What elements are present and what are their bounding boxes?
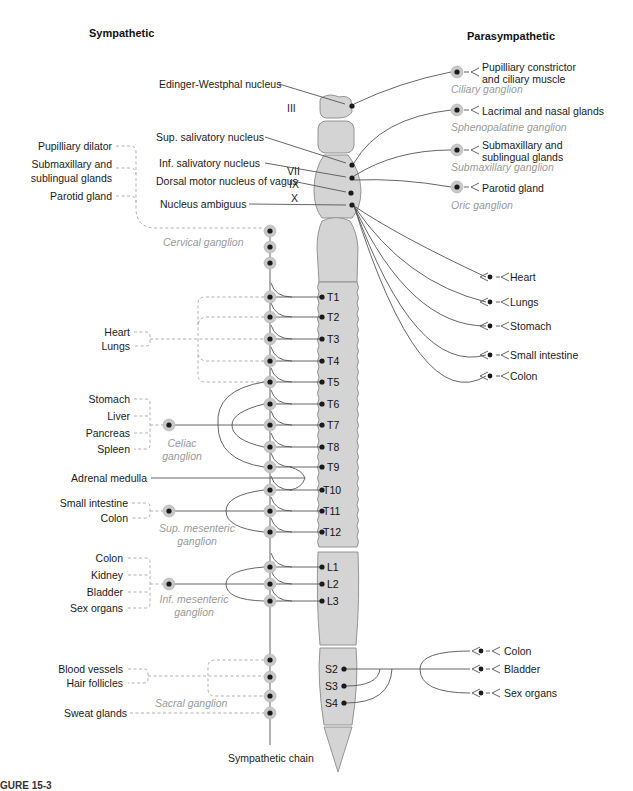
vagus-target-small-intestine: Small intestine <box>510 349 578 361</box>
cranial-nerve-ix: IX <box>289 178 299 190</box>
symp-target-hair-follicles: Hair follicles <box>66 677 123 689</box>
segment-label-t10: T10 <box>323 484 341 496</box>
segment-label-l1: L1 <box>327 561 339 573</box>
symp-target-pupil-dilator: Pupilliary dilator <box>38 140 112 152</box>
symp-target-small-intestine: Small intestine <box>60 497 128 509</box>
sacral-para-target-sex-organs: Sex organs <box>504 687 557 699</box>
ganglion-label-ciliary: Ciliary ganglion <box>451 83 523 96</box>
ganglion-label-sphenopalatine: Sphenopalatine ganglion <box>451 121 567 134</box>
ganglion-label-sacral: Sacral ganglion <box>155 697 227 710</box>
symp-target-adrenal-medulla: Adrenal medulla <box>71 472 147 484</box>
segment-label-s2: S2 <box>325 663 338 675</box>
ganglion-label-sup-mesenteric: Sup. mesentericganglion <box>157 522 237 548</box>
vagus-target-heart: Heart <box>510 271 536 283</box>
symp-target-lungs: Lungs <box>101 340 130 352</box>
symp-target-sex-organs: Sex organs <box>70 602 123 614</box>
symp-target-colon-inf: Colon <box>96 552 123 564</box>
segment-label-l2: L2 <box>327 578 339 590</box>
cranial-nerve-vii: VII <box>287 165 300 177</box>
segment-label-t6: T6 <box>327 398 339 410</box>
segment-label-l3: L3 <box>327 595 339 607</box>
vagus-target-stomach: Stomach <box>510 320 551 332</box>
segment-label-t4: T4 <box>327 355 339 367</box>
symp-target-liver: Liver <box>107 410 130 422</box>
nucleus-label-sup-salivatory: Sup. salivatory nucleus <box>156 131 264 143</box>
segment-label-t12: T12 <box>323 526 341 538</box>
symp-target-sweat-glands: Sweat glands <box>64 707 127 719</box>
symp-target-stomach: Stomach <box>89 393 130 405</box>
segment-label-s4: S4 <box>325 697 338 709</box>
segment-label-t11: T11 <box>323 505 340 517</box>
symp-target-heart: Heart <box>104 326 130 338</box>
ganglion-label-cervical: Cervical ganglion <box>163 236 244 249</box>
cranial-nerve-x: X <box>291 192 298 204</box>
segment-label-t5: T5 <box>327 376 339 388</box>
symp-target-blood-vessels: Blood vessels <box>58 663 123 675</box>
para-target-lacrimal-nasal: Lacrimal and nasal glands <box>482 105 604 117</box>
segment-label-t7: T7 <box>327 419 339 431</box>
symp-target-colon: Colon <box>101 512 128 524</box>
segment-label-s3: S3 <box>325 680 338 692</box>
symp-target-kidney: Kidney <box>91 569 123 581</box>
segment-label-t8: T8 <box>327 441 339 453</box>
symp-target-pancreas: Pancreas <box>86 427 130 439</box>
nucleus-label-ambiguus: Nucleus ambiguus <box>160 198 246 210</box>
ganglion-label-otic: Oric ganglion <box>451 199 513 212</box>
cranial-nerve-iii: III <box>287 102 296 114</box>
para-target-pupil-constrictor: Pupilliary constrictorand ciliary muscle <box>482 61 576 85</box>
nucleus-label-edinger-westphal: Edinger-Westphal nucleus <box>159 78 281 90</box>
symp-target-submax-sublingual: Submaxillary andsublingual glands <box>31 157 112 185</box>
para-target-parotid: Parotid gland <box>482 182 544 194</box>
sacral-para-target-colon: Colon <box>504 645 531 657</box>
segment-label-t9: T9 <box>327 461 339 473</box>
symp-target-spleen: Spleen <box>97 443 130 455</box>
vagus-target-colon: Colon <box>510 370 537 382</box>
sacral-para-target-bladder: Bladder <box>504 663 540 675</box>
sympathetic-header: Sympathetic <box>89 27 154 39</box>
ganglion-label-submaxillary: Submaxillary ganglion <box>451 161 554 174</box>
sympathetic-chain-label: Sympathetic chain <box>228 752 314 764</box>
ganglion-label-inf-mesenteric: Inf. mesentericganglion <box>155 593 233 619</box>
symp-target-parotid: Parotid gland <box>50 190 112 202</box>
symp-target-bladder: Bladder <box>87 586 123 598</box>
segment-label-t2: T2 <box>327 311 339 323</box>
ganglion-label-celiac: Celiacganglion <box>162 437 202 463</box>
nucleus-label-inf-salivatory: Inf. salivatory nucleus <box>159 157 260 169</box>
segment-label-t1: T1 <box>327 291 339 303</box>
segment-label-t3: T3 <box>327 333 339 345</box>
nucleus-label-dorsal-motor-vagus: Dorsal motor nucleus of vagus <box>156 175 298 187</box>
sympathetic-dashed-postganglionic-fibers <box>116 146 264 713</box>
vagus-target-lungs: Lungs <box>510 296 539 308</box>
para-target-submaxillary-sublingual: Submaxillary andsublingual glands <box>482 139 563 163</box>
figure-label: GURE 15-3 <box>0 780 52 791</box>
parasympathetic-header: Parasympathetic <box>467 30 555 42</box>
